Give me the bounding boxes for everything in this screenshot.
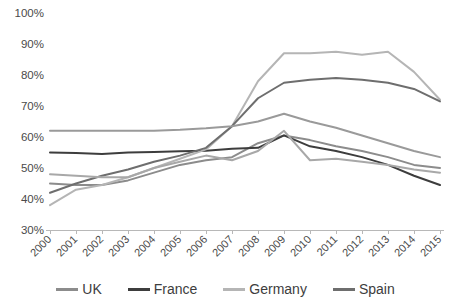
legend-swatch-germany [223, 288, 245, 291]
y-axis-tick-labels: 30%40%50%60%70%80%90%100% [15, 7, 44, 236]
y-axis-tick-label: 100% [15, 7, 44, 19]
x-axis-tick-label: 2014 [392, 233, 418, 259]
x-axis-tick-label: 2013 [366, 233, 392, 259]
x-axis-tick-label: 2004 [132, 233, 158, 259]
x-axis-tick-label: 2012 [340, 233, 366, 259]
line-chart: 30%40%50%60%70%80%90%100% 20002001200220… [0, 0, 451, 306]
legend-item-spain[interactable]: Spain [333, 282, 395, 296]
legend-swatch-france [128, 288, 150, 291]
legend-label: UK [82, 282, 101, 296]
x-axis-tick-label: 2006 [184, 233, 210, 259]
y-axis-tick-label: 80% [21, 69, 44, 81]
series-lines [50, 52, 440, 205]
x-axis-tick-label: 2000 [28, 233, 54, 259]
chart-legend: UKFranceGermanySpain [0, 272, 451, 306]
legend-label: France [154, 282, 198, 296]
legend-item-germany[interactable]: Germany [223, 282, 307, 296]
y-axis-tick-label: 60% [21, 131, 44, 143]
y-axis-tick-label: 70% [21, 100, 44, 112]
legend-item-france[interactable]: France [128, 282, 198, 296]
legend-swatch-uk [56, 288, 78, 291]
y-axis-tick-label: 40% [21, 193, 44, 205]
legend-swatch-spain [333, 288, 355, 291]
y-axis-tick-label: 30% [21, 224, 44, 236]
x-axis-tick-label: 2011 [314, 233, 339, 258]
y-axis-tick-label: 50% [21, 162, 44, 174]
plot-svg: 30%40%50%60%70%80%90%100% 20002001200220… [0, 0, 451, 272]
legend-label: Germany [249, 282, 307, 296]
y-axis-tick-label: 90% [21, 38, 44, 50]
legend-item-uk[interactable]: UK [56, 282, 101, 296]
series-line-spain [50, 78, 440, 193]
x-axis-tick-label: 2010 [288, 233, 314, 259]
legend-label: Spain [359, 282, 395, 296]
x-axis-tick-label: 2001 [54, 233, 80, 259]
x-axis [46, 230, 444, 234]
x-axis-tick-label: 2003 [106, 233, 132, 259]
x-axis-tick-label: 2007 [210, 233, 236, 259]
x-axis-tick-label: 2002 [80, 233, 106, 259]
x-axis-tick-label: 2005 [158, 233, 184, 259]
x-axis-tick-label: 2008 [236, 233, 262, 259]
x-axis-tick-labels: 2000200120022003200420052006200720082009… [28, 233, 444, 259]
x-axis-tick-label: 2015 [418, 233, 444, 259]
x-axis-tick-label: 2009 [262, 233, 288, 259]
plot-area: 30%40%50%60%70%80%90%100% 20002001200220… [0, 0, 451, 272]
series-line-germany [50, 52, 440, 205]
